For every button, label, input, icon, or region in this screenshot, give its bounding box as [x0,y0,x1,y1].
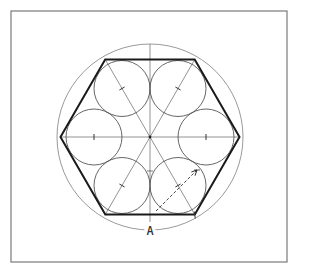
radius-dimension-arrow [156,170,200,211]
construction-lines [61,44,240,222]
center-point [149,136,152,139]
dimension-label-a: A [144,225,155,238]
